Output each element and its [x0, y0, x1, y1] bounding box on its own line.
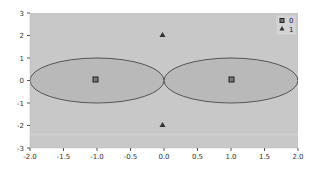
x-tick: -0.5 [124, 148, 138, 161]
svg-text:0.0: 0.0 [158, 153, 169, 161]
x-tick: -1.5 [57, 148, 71, 161]
y-tick: 1 [20, 55, 30, 63]
svg-text:-2.0: -2.0 [23, 153, 37, 161]
svg-text:-1.0: -1.0 [90, 153, 104, 161]
svg-text:0.5: 0.5 [192, 153, 203, 161]
svg-text:-3: -3 [17, 145, 24, 153]
y-axis: 3 2 1 0 -1 -2 -3 [17, 10, 30, 153]
x-tick: 1.5 [259, 148, 270, 161]
y-tick: -1 [17, 100, 30, 108]
svg-text:2.0: 2.0 [292, 153, 303, 161]
x-tick: 2.0 [292, 148, 303, 161]
legend: 0 1 [276, 15, 296, 35]
svg-text:2: 2 [20, 32, 24, 40]
square-marker-icon [229, 77, 234, 82]
y-tick: -3 [17, 145, 30, 153]
chart: 3 2 1 0 -1 -2 -3 -2.0 -1.5 -1.0 -0.5 0.0… [0, 0, 316, 171]
svg-text:1: 1 [20, 55, 24, 63]
plot-area [30, 13, 298, 148]
svg-text:-1.5: -1.5 [57, 153, 71, 161]
x-tick: 0.5 [192, 148, 203, 161]
svg-text:0: 0 [289, 17, 293, 25]
x-tick: -2.0 [23, 148, 37, 161]
square-marker-icon [280, 19, 284, 23]
square-marker-icon [93, 77, 98, 82]
y-tick: 0 [20, 77, 30, 85]
svg-text:-1: -1 [17, 100, 24, 108]
x-axis: -2.0 -1.5 -1.0 -0.5 0.0 0.5 1.0 1.5 2.0 [23, 148, 303, 161]
svg-text:-0.5: -0.5 [124, 153, 138, 161]
svg-text:0: 0 [20, 77, 24, 85]
x-tick: -1.0 [90, 148, 104, 161]
svg-text:1.5: 1.5 [259, 153, 270, 161]
svg-text:1: 1 [289, 26, 293, 34]
svg-text:3: 3 [20, 10, 24, 18]
svg-text:1.0: 1.0 [225, 153, 236, 161]
y-tick: 2 [20, 32, 30, 40]
y-tick: 3 [20, 10, 30, 18]
plot-light-band [30, 133, 298, 136]
svg-text:-2: -2 [17, 122, 24, 130]
x-tick: 1.0 [225, 148, 236, 161]
y-tick: -2 [17, 122, 30, 130]
x-tick: 0.0 [158, 148, 169, 161]
